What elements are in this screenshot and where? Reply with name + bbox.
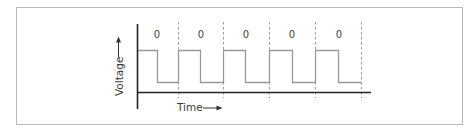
x-axis-label: Time <box>176 101 203 113</box>
bit-label: 0 <box>289 29 295 40</box>
bit-label: 0 <box>198 29 204 40</box>
arrow-up-icon <box>116 37 121 58</box>
bit-label: 0 <box>154 29 160 40</box>
bit-label: 0 <box>336 29 342 40</box>
arrow-right-icon <box>203 106 223 111</box>
figure-canvas: 0 0 0 0 0 Voltage Time <box>0 0 475 130</box>
y-axis-label: Voltage <box>113 57 125 96</box>
bit-label: 0 <box>243 29 249 40</box>
voltage-time-diagram: 0 0 0 0 0 Voltage Time <box>0 0 475 130</box>
square-waveform <box>138 51 362 83</box>
